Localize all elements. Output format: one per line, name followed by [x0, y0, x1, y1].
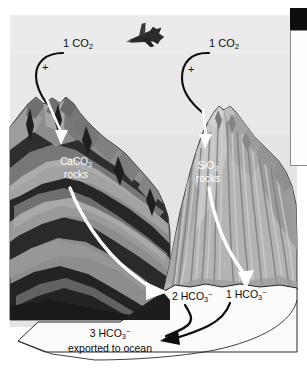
co2-label-right: 1 CO2 — [209, 38, 239, 51]
adjacent-panel-header-bar — [290, 8, 307, 30]
bicarbonate-label-right: 1 HCO3− — [226, 289, 267, 302]
silicate-rocks-label: SiO2 rocks — [178, 160, 238, 184]
plus-sign-right: + — [188, 64, 194, 76]
adjacent-panel-body — [290, 30, 307, 166]
diagram-canvas — [0, 0, 307, 380]
weathering-figure: 1 CO2 + 1 CO2 + CaCO3 rocks SiO2 rocks 2… — [0, 0, 307, 380]
exported-to-ocean-label: 3 HCO3− exported to ocean — [48, 327, 172, 354]
bicarbonate-label-left: 2 HCO3− — [172, 291, 213, 304]
carbonate-rocks-label: CaCO3 rocks — [40, 156, 112, 180]
plus-sign-left: + — [42, 62, 48, 74]
adjacent-panel-crop — [288, 8, 307, 166]
co2-label-left: 1 CO2 — [63, 38, 93, 51]
